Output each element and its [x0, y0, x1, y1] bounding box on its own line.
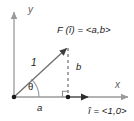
x-axis-label: x: [115, 80, 120, 90]
vector-magnitude-label: 1: [31, 58, 37, 68]
horizontal-component-label: a: [37, 103, 42, 113]
foot-of-perpendicular-point: [66, 95, 71, 100]
vector-diagram-figure: y x F (î) = <a,b> 1 θ a b î = <1,0>: [0, 0, 134, 121]
origin-point: [12, 95, 17, 100]
angle-theta-label: θ: [28, 82, 33, 92]
resultant-vector-arrow: [14, 49, 67, 98]
unit-vector-label: î = <1,0>: [88, 106, 127, 116]
function-value-label: F (î) = <a,b>: [57, 25, 111, 35]
vertical-component-label: b: [76, 62, 81, 72]
diagram-canvas: [0, 0, 134, 121]
y-axis-label: y: [28, 5, 33, 15]
